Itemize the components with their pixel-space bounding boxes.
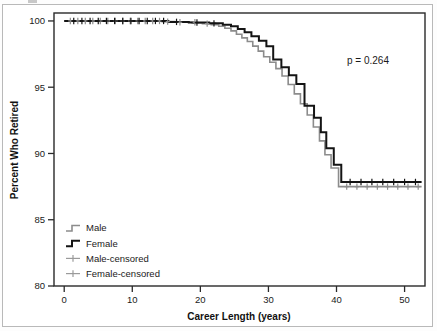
- legend-label: Female-censored: [86, 268, 160, 279]
- y-axis-ticks: 80859095100: [29, 15, 54, 291]
- x-axis-ticks: 01020304050: [62, 286, 410, 305]
- legend-label: Female: [86, 238, 118, 249]
- y-tick-label: 80: [34, 280, 45, 291]
- x-tick-label: 20: [195, 294, 206, 305]
- y-tick-label: 85: [34, 214, 45, 225]
- p-value-annotation: p = 0.264: [347, 55, 389, 66]
- legend-label: Male-censored: [86, 253, 149, 264]
- y-tick-label: 95: [34, 82, 45, 93]
- x-tick-label: 30: [263, 294, 274, 305]
- x-tick-label: 10: [127, 294, 138, 305]
- survival-chart: 80859095100 01020304050 MaleFemaleMale-c…: [0, 0, 437, 331]
- legend-label: Male: [86, 222, 107, 233]
- y-axis-title: Percent Who Retired: [9, 101, 20, 199]
- x-tick-label: 40: [331, 294, 342, 305]
- figure-container: 80859095100 01020304050 MaleFemaleMale-c…: [0, 0, 437, 331]
- x-axis-title: Career Length (years): [187, 311, 290, 322]
- x-tick-label: 0: [62, 294, 67, 305]
- x-tick-label: 50: [399, 294, 410, 305]
- y-tick-label: 90: [34, 148, 45, 159]
- y-tick-label: 100: [29, 15, 45, 26]
